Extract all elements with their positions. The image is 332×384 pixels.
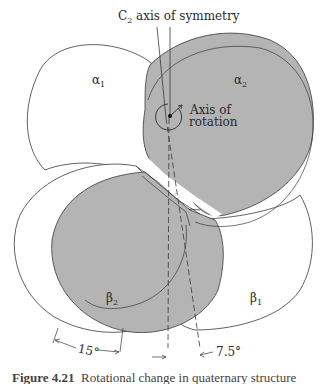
angle-7-5-dimension: 7.5° <box>152 345 241 359</box>
c2-axis-title: C2 axis of symmetry <box>118 9 240 25</box>
figure-caption: Figure 4.21 Rotational change in quatern… <box>12 370 332 384</box>
caption-number: Figure 4.21 <box>12 370 75 384</box>
angle-7-5-label: 7.5° <box>216 345 241 359</box>
axis-of-rotation-label-line2: rotation <box>189 115 238 129</box>
caption-text: Rotational change in quaternary structur… <box>81 370 296 384</box>
angle-15-label: 15° <box>77 341 101 359</box>
